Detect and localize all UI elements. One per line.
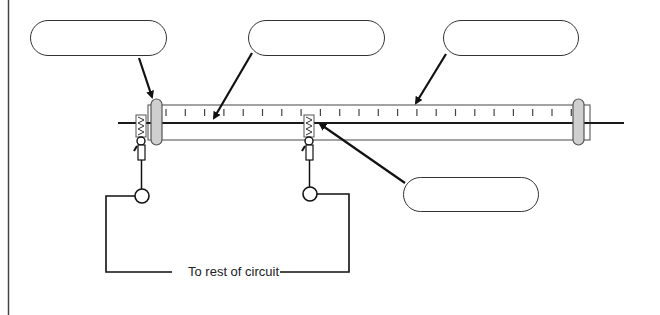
arrow-to-ruler [416,54,446,103]
circuit-caption: To rest of circuit [188,264,279,280]
callout-label-2[interactable] [248,20,385,56]
right-terminal [303,187,317,201]
arrow-to-end-cap [139,58,152,97]
callout-label-3[interactable] [443,20,579,56]
callout-label-1[interactable] [30,20,167,56]
left-circuit-lead [106,196,172,272]
right-end-cap [573,99,584,145]
left-terminal [135,189,149,203]
right-circuit-lead [280,194,349,272]
left-end-cap [151,99,162,145]
callout-label-4[interactable] [403,177,539,212]
left-crocodile-clip[interactable] [134,115,149,203]
